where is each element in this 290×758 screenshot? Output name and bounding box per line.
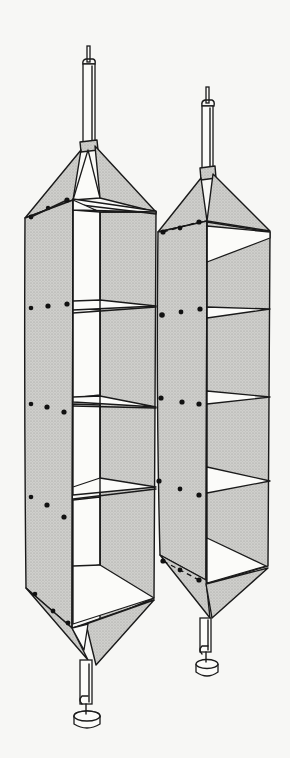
top-strap [200,87,216,180]
left-organizer [25,46,156,728]
right-organizer [156,87,270,676]
compartment-2 [73,308,100,398]
compartment-4 [73,497,100,570]
compartment-3 [73,404,100,490]
top-cap-right [95,146,156,212]
top-strap [80,46,98,152]
top-cap-right [207,174,270,231]
compartment-1 [73,210,100,308]
organizer-illustration [0,0,290,758]
bottom-weight [196,618,218,676]
back-panel [100,212,156,622]
left-side-panel [25,200,73,628]
bottom-weight [74,660,100,728]
